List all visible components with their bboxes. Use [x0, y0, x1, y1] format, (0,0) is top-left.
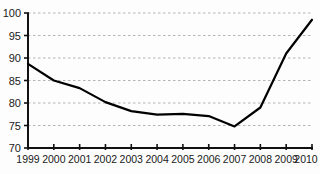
y-tick-label-100: 100 [3, 7, 21, 19]
x-tick-label-2000: 2000 [42, 153, 66, 165]
x-tick-label-2010: 2010 [294, 153, 318, 165]
y-tick-label-75: 75 [9, 120, 21, 132]
x-tick-label-2008: 2008 [249, 153, 273, 165]
x-tick-label-2005: 2005 [171, 153, 195, 165]
x-tick-label-1999: 1999 [16, 153, 40, 165]
x-tick-label-2002: 2002 [94, 153, 118, 165]
x-tick-label-2003: 2003 [120, 153, 144, 165]
x-tick-label-2004: 2004 [145, 153, 169, 165]
x-tick-label-2007: 2007 [223, 153, 247, 165]
y-tick-label-80: 80 [9, 97, 21, 109]
line-chart: 707580859095100 199920002001200220032004… [0, 0, 320, 174]
y-tick-label-90: 90 [9, 52, 21, 64]
y-tick-label-85: 85 [9, 75, 21, 87]
x-tick-label-2006: 2006 [197, 153, 221, 165]
x-tick-label-2001: 2001 [68, 153, 92, 165]
y-tick-label-95: 95 [9, 30, 21, 42]
chart-canvas: 707580859095100 199920002001200220032004… [0, 0, 320, 174]
